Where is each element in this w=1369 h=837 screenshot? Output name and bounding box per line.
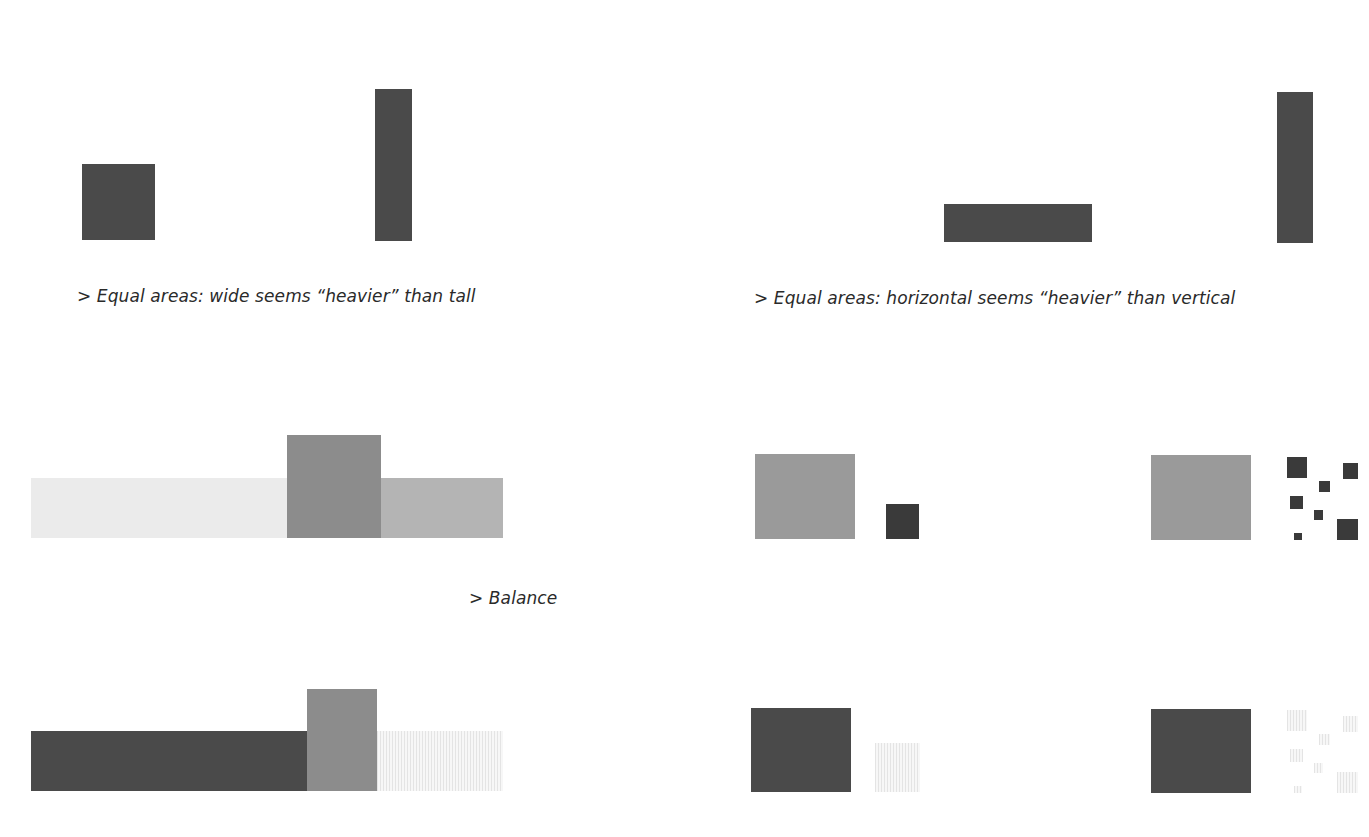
scattered-dark-square bbox=[1337, 519, 1358, 540]
gray-block bbox=[1151, 455, 1251, 540]
scattered-faint-square bbox=[1294, 786, 1302, 793]
scattered-dark-square bbox=[1294, 533, 1302, 540]
scattered-faint-square bbox=[1314, 763, 1323, 773]
scattered-faint-square bbox=[1337, 772, 1358, 793]
gray-block bbox=[755, 454, 855, 539]
scattered-dark-square bbox=[1290, 496, 1303, 509]
scattered-dark-square bbox=[1287, 457, 1307, 478]
scattered-dark-square bbox=[1319, 481, 1330, 492]
dark-tall-bar bbox=[375, 89, 412, 241]
scattered-dark-square bbox=[1314, 510, 1323, 520]
caption-balance: > Balance bbox=[469, 588, 557, 608]
scattered-faint-square bbox=[1343, 716, 1358, 732]
medium-gray-bar bbox=[381, 478, 503, 538]
scattered-faint-square bbox=[1287, 710, 1307, 731]
caption-horizontal-vertical: > Equal areas: horizontal seems “heavier… bbox=[754, 288, 1235, 308]
dark-block bbox=[751, 708, 851, 792]
scattered-faint-square bbox=[1319, 734, 1330, 745]
dark-long-bar bbox=[31, 731, 307, 791]
small-faint-square bbox=[875, 743, 920, 792]
dark-horizontal-bar bbox=[944, 204, 1092, 242]
light-bar bbox=[377, 731, 503, 791]
small-dark-square bbox=[886, 504, 919, 539]
dark-vertical-bar bbox=[1277, 92, 1313, 243]
dark-block bbox=[1151, 709, 1251, 793]
scattered-dark-square bbox=[1343, 463, 1358, 479]
scattered-faint-square bbox=[1290, 749, 1303, 762]
light-long-bar bbox=[31, 478, 287, 538]
mid-gray-block bbox=[307, 689, 377, 791]
dark-square bbox=[82, 164, 155, 240]
caption-wide-tall: > Equal areas: wide seems “heavier” than… bbox=[77, 286, 476, 306]
mid-gray-block bbox=[287, 435, 381, 538]
